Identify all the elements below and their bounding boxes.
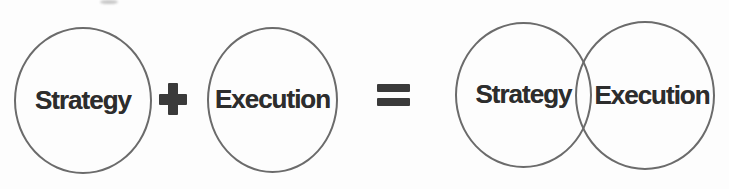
- execution-label-right: Execution: [594, 82, 709, 110]
- equals-bottom-bar: [377, 98, 410, 106]
- execution-circle-right: Execution: [575, 21, 715, 170]
- equals-icon: [377, 84, 410, 106]
- strategy-circle-right: Strategy: [455, 22, 592, 168]
- plus-icon: [159, 83, 187, 115]
- execution-label-left: Execution: [215, 86, 330, 114]
- scan-artifact: [100, 0, 118, 4]
- equals-top-bar: [377, 84, 410, 92]
- strategy-execution-diagram: Strategy Execution Strategy Execution: [0, 0, 729, 189]
- plus-vertical-bar: [168, 83, 178, 115]
- execution-circle-left: Execution: [207, 27, 338, 173]
- strategy-circle-left: Strategy: [14, 27, 152, 174]
- strategy-label-left: Strategy: [35, 87, 131, 115]
- strategy-label-right: Strategy: [475, 81, 571, 109]
